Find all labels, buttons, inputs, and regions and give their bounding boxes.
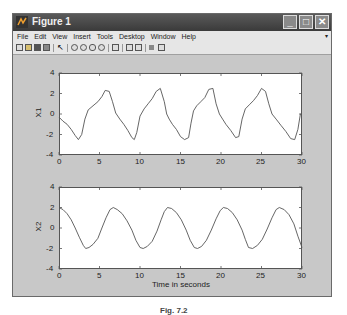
- ytick-label: -4: [46, 150, 53, 159]
- xtick-label: 10: [135, 271, 144, 280]
- xtick-label: 15: [176, 271, 185, 280]
- ytick-label: 0: [50, 223, 54, 232]
- ytick-label: -2: [46, 244, 53, 253]
- xtick-label: 0: [57, 157, 61, 166]
- ytick-label: -2: [46, 130, 53, 139]
- xtick-label: 10: [135, 157, 144, 166]
- ytick-label: -4: [46, 264, 53, 273]
- xtick-label: 30: [297, 271, 306, 280]
- x-axis-label: Time in seconds: [152, 280, 210, 289]
- y-axis-label-x2: X2: [34, 222, 43, 232]
- series-line-x1: [59, 88, 302, 139]
- xtick-label: 15: [176, 157, 185, 166]
- xtick-label: 20: [216, 271, 225, 280]
- y-axis-label-x1: X1: [34, 108, 43, 118]
- ytick-label: 0: [50, 109, 54, 118]
- series-line-x2: [59, 208, 302, 249]
- xtick-label: 25: [256, 271, 265, 280]
- xtick-label: 5: [97, 157, 101, 166]
- xtick-label: 20: [216, 157, 225, 166]
- xtick-label: 5: [97, 271, 101, 280]
- xtick-label: 25: [256, 157, 265, 166]
- ytick-label: 4: [50, 68, 54, 77]
- ytick-label: 2: [50, 203, 54, 212]
- ytick-label: 4: [50, 182, 54, 191]
- ytick-label: 2: [50, 89, 54, 98]
- xtick-label: 30: [297, 157, 306, 166]
- figure-caption: Fig. 7.2: [160, 306, 188, 315]
- xtick-label: 0: [57, 271, 61, 280]
